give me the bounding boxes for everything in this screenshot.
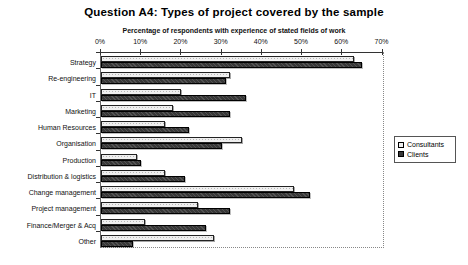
x-tick-label: 30% <box>206 38 236 45</box>
category-label: Change management <box>0 189 96 197</box>
y-axis-tick <box>96 198 100 199</box>
plot-area <box>100 52 384 248</box>
legend-label: Clients <box>407 151 428 158</box>
legend-label: Consultants <box>407 141 444 148</box>
bar-clients-3 <box>101 111 230 117</box>
x-tick-label: 10% <box>125 38 155 45</box>
bar-clients-5 <box>101 143 222 149</box>
x-tick-label: 40% <box>246 38 276 45</box>
category-label: IT <box>0 92 96 100</box>
category-label: Distribution & logistics <box>0 173 96 181</box>
legend-item-clients: Clients <box>398 151 452 158</box>
bar-clients-7 <box>101 176 185 182</box>
category-label: Other <box>0 238 96 246</box>
y-axis-tick <box>96 182 100 183</box>
x-tick-mark <box>180 49 181 55</box>
legend-swatch-consultants <box>398 142 404 148</box>
y-axis-tick <box>96 150 100 151</box>
bar-clients-6 <box>101 160 141 166</box>
category-label: Project management <box>0 205 96 213</box>
bar-clients-9 <box>101 208 230 214</box>
x-tick-mark <box>382 49 383 55</box>
y-axis-tick <box>96 52 100 53</box>
x-tick-label: 20% <box>165 38 195 45</box>
y-axis-tick <box>96 101 100 102</box>
legend-swatch-clients <box>398 151 404 157</box>
legend-item-consultants: Consultants <box>398 141 452 148</box>
legend: ConsultantsClients <box>394 136 456 163</box>
x-tick-label: 60% <box>326 38 356 45</box>
bar-clients-1 <box>101 78 226 84</box>
bar-clients-8 <box>101 192 310 198</box>
x-tick-mark <box>261 49 262 55</box>
category-label: Production <box>0 157 96 165</box>
y-axis-tick <box>96 231 100 232</box>
x-tick-label: 70% <box>367 38 397 45</box>
x-tick-mark <box>221 49 222 55</box>
x-tick-mark <box>301 49 302 55</box>
category-label: Strategy <box>0 59 96 67</box>
y-axis-tick <box>96 68 100 69</box>
x-tick-label: 50% <box>286 38 316 45</box>
category-label: Finance/Merger & Acq <box>0 222 96 230</box>
bar-clients-0 <box>101 62 362 68</box>
x-tick-mark <box>100 49 101 55</box>
category-label: Marketing <box>0 108 96 116</box>
x-tick-mark <box>341 49 342 55</box>
y-axis-tick <box>96 117 100 118</box>
bar-clients-11 <box>101 241 133 247</box>
y-axis-tick <box>96 215 100 216</box>
y-axis-tick <box>96 166 100 167</box>
x-tick-label: 0% <box>85 38 115 45</box>
category-label: Re-engineering <box>0 75 96 83</box>
chart-canvas: Question A4: Types of project covered by… <box>0 0 468 265</box>
y-axis-tick <box>96 133 100 134</box>
y-axis-tick <box>96 85 100 86</box>
x-tick-mark <box>140 49 141 55</box>
category-label: Human Resources <box>0 124 96 132</box>
bar-clients-10 <box>101 225 206 231</box>
chart-title: Question A4: Types of project covered by… <box>0 6 468 18</box>
category-label: Organisation <box>0 140 96 148</box>
bar-clients-2 <box>101 95 246 101</box>
chart-subtitle: Percentage of respondents with experienc… <box>0 27 468 34</box>
bar-clients-4 <box>101 127 189 133</box>
